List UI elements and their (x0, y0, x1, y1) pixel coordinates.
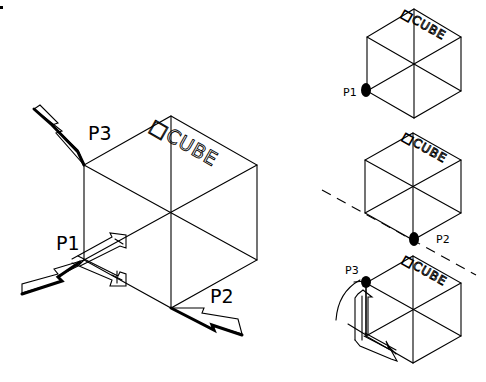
p1-snap-point-icon (361, 83, 371, 97)
side-cube-2: □CUBE P2 (322, 129, 476, 275)
p1-label: P1 (56, 232, 80, 254)
side-cube-1: □CUBE P1 (343, 6, 461, 118)
p1-arrow-y-axis (72, 256, 126, 286)
p3-rotation-arc (336, 280, 360, 320)
corner-mark (0, 6, 3, 9)
side-p2-label: P2 (436, 233, 450, 246)
main-cube-label: □CUBE (146, 114, 222, 170)
side-cube-3-label: □CUBE (400, 252, 450, 288)
p1-arrows: P1 (22, 232, 126, 294)
p3-label: P3 (88, 122, 112, 144)
side-cube-3: □CUBE P3 (336, 252, 461, 363)
p2-label: P2 (210, 285, 234, 307)
side-p3-label: P3 (345, 264, 359, 277)
cube-snap-diagram: □CUBE P3 P1 P2 □CUBE P1 (0, 0, 486, 382)
side-p1-label: P1 (343, 86, 357, 99)
p3-arrow-z-axis (355, 290, 372, 340)
p2-arrow: P2 (171, 285, 242, 335)
p2-snap-point-icon (409, 232, 419, 246)
p3-snap-point-icon (361, 276, 371, 288)
